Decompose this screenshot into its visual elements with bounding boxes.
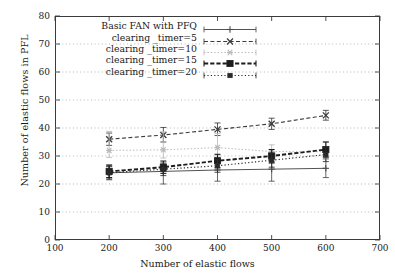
x-tick-label: 300 (143, 243, 183, 253)
y-tick-label: 60 (24, 67, 50, 77)
y-tick-label: 70 (24, 39, 50, 49)
legend-label: clearing _timer=15 (106, 54, 202, 65)
legend-swatch-clearing-timer-20 (202, 66, 258, 77)
y-tick-label: 50 (24, 95, 50, 105)
x-tick-label: 600 (306, 243, 346, 253)
x-tick-label: 400 (198, 243, 238, 253)
legend-item: clearing _timer=10 (62, 43, 258, 54)
y-tick-label: 20 (24, 179, 50, 189)
legend-label: clearing _timer=20 (106, 66, 202, 77)
legend: Basic FAN with PFQ clearing _timer=5 cle… (62, 19, 258, 77)
legend-line-sample (202, 70, 258, 81)
legend-swatch-clearing-timer-15 (202, 54, 258, 65)
legend-label: clearing _timer=10 (106, 43, 202, 54)
chart-figure: Number of elastic flows in PFL Number of… (0, 0, 395, 280)
y-tick-label: 30 (24, 151, 50, 161)
legend-item: clearing _timer=15 (62, 54, 258, 65)
legend-swatch-clearing-timer-10 (202, 43, 258, 54)
plot-area: 01020304050607080 100200300400500600700 … (55, 16, 380, 240)
legend-label: clearing _timer=5 (112, 32, 202, 43)
x-axis-title: Number of elastic flows (0, 258, 395, 269)
x-tick-label: 100 (35, 243, 75, 253)
y-tick-label: 40 (24, 123, 50, 133)
legend-label: Basic FAN with PFQ (101, 20, 202, 31)
legend-item: clearing _timer=5 (62, 31, 258, 42)
legend-item: Basic FAN with PFQ (62, 20, 258, 31)
legend-swatch-basic-fan-with-pfq (202, 20, 258, 31)
x-tick-label: 200 (89, 243, 129, 253)
legend-item: clearing _timer=20 (62, 66, 258, 77)
legend-swatch-clearing-timer-5 (202, 32, 258, 43)
x-tick-label: 500 (252, 243, 292, 253)
y-tick-label: 80 (24, 11, 50, 21)
y-tick-label: 10 (24, 207, 50, 217)
x-tick-label: 700 (360, 243, 395, 253)
